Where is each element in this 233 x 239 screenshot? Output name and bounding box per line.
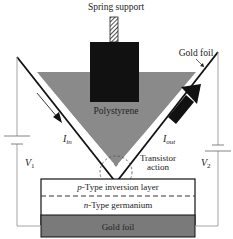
black-block bbox=[90, 42, 139, 102]
gold-foil-top-label: Gold foil bbox=[179, 48, 214, 58]
polystyrene-label: Polystyrene bbox=[94, 106, 139, 116]
v1-label: V1 bbox=[25, 157, 35, 170]
spring-support bbox=[110, 17, 118, 42]
i-out-label: Iout bbox=[162, 133, 176, 146]
v2-battery-icon bbox=[205, 145, 231, 151]
transistor-action-label-2: action bbox=[147, 162, 169, 172]
i-in-label: Iin bbox=[62, 133, 72, 146]
v2-label: V2 bbox=[201, 157, 211, 170]
p-type-label: p-Type inversion layer bbox=[76, 182, 158, 192]
transistor-diagram: Spring support Polystyrene Gold foil Iin… bbox=[0, 0, 233, 239]
spring-support-label: Spring support bbox=[88, 2, 145, 12]
gold-foil-bottom-label: Gold foil bbox=[102, 222, 135, 232]
v1-battery-icon bbox=[4, 136, 30, 144]
n-type-label: n-Type germanium bbox=[84, 200, 153, 210]
